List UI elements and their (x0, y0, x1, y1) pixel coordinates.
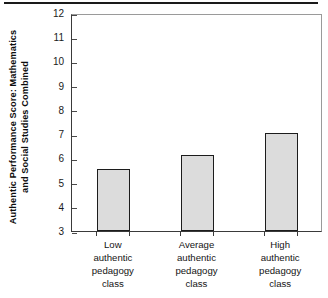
x-axis-category-label: Lowauthenticpedagogyclass (71, 238, 155, 290)
x-axis-category-label-line: class (238, 277, 322, 290)
x-axis-tick-mark (264, 232, 265, 236)
x-axis-tick-mark (213, 232, 214, 236)
x-axis-category-label: Averageauthenticpedagogyclass (155, 238, 239, 290)
y-axis-tick-label: 8 (44, 106, 64, 116)
y-axis-tick-mark (72, 87, 77, 88)
x-axis-category-label-line: pedagogy (155, 264, 239, 277)
y-axis-tick-mark (72, 184, 77, 185)
bar (265, 133, 298, 231)
x-axis-category-label-line: class (155, 277, 239, 290)
y-axis-tick-label: 6 (44, 154, 64, 164)
x-axis-category-label-line: Average (155, 238, 239, 251)
y-axis-tick-label: 4 (44, 203, 64, 213)
x-axis-tick-mark (297, 232, 298, 236)
x-axis-tick-mark (180, 232, 181, 236)
bar-chart-figure: Authentic Performance Score: Mathematics… (0, 0, 328, 298)
x-axis-tick-mark (96, 232, 97, 236)
x-axis-category-label-line: class (71, 277, 155, 290)
y-axis-tick-mark (72, 136, 77, 137)
plot-inner (72, 15, 321, 231)
y-axis-tick-mark (72, 111, 77, 112)
y-axis-tick-label: 11 (44, 33, 64, 43)
x-axis-tick-mark (129, 232, 130, 236)
plot-area (71, 14, 322, 232)
y-axis-tick-mark (72, 160, 77, 161)
y-axis-tick-label: 3 (44, 227, 64, 237)
y-axis-tick-label: 7 (44, 130, 64, 140)
bar (97, 169, 130, 231)
x-axis-category-label: Highauthenticpedagogyclass (238, 238, 322, 290)
x-axis-category-label-line: High (238, 238, 322, 251)
x-axis-category-label-line: authentic (238, 251, 322, 264)
y-axis-tick-mark (72, 63, 77, 64)
y-axis-tick-mark (72, 15, 77, 16)
x-axis-category-label-line: authentic (71, 251, 155, 264)
top-rule-divider (4, 2, 318, 4)
x-axis-category-label-line: authentic (155, 251, 239, 264)
y-axis-tick-label: 5 (44, 179, 64, 189)
y-axis-tick-label: 10 (44, 57, 64, 67)
x-axis-category-label-line: pedagogy (71, 264, 155, 277)
y-axis-tick-mark (72, 208, 77, 209)
bar (181, 155, 214, 231)
x-axis-category-labels: LowauthenticpedagogyclassAverageauthenti… (71, 238, 322, 296)
x-axis-tick-marks (71, 232, 322, 237)
x-axis-category-label-line: Low (71, 238, 155, 251)
y-axis-tick-mark (72, 39, 77, 40)
y-axis-tick-label: 12 (44, 9, 64, 19)
x-axis-category-label-line: pedagogy (238, 264, 322, 277)
y-axis-tick-label: 9 (44, 82, 64, 92)
